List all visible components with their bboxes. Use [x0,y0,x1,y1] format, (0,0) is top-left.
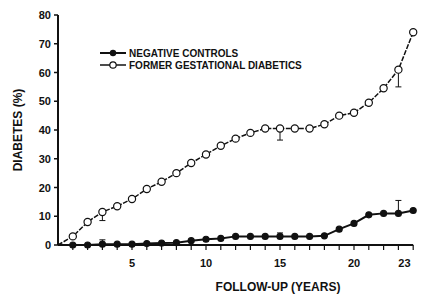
open-data-point [380,85,387,92]
filled-data-point [395,210,401,216]
filled-data-point [262,233,268,239]
open-data-point [336,112,343,119]
open-data-point [99,208,106,215]
legend-former-gdm: FORMER GESTATIONAL DIABETICS [129,60,302,71]
open-data-point [395,66,402,73]
y-tick-label: 80 [39,9,51,21]
filled-data-point [307,233,313,239]
filled-data-point [336,226,342,232]
open-data-point [202,151,209,158]
open-data-point [262,125,269,132]
filled-data-point [129,241,135,247]
open-data-point [321,121,328,128]
open-data-point [69,233,76,240]
open-data-point [173,170,180,177]
filled-data-point [277,233,283,239]
open-data-point [188,159,195,166]
open-data-point [128,195,135,202]
filled-data-point [366,212,372,218]
open-data-point [276,125,283,132]
filled-data-point [351,220,357,226]
open-data-point [306,125,313,132]
filled-data-point [321,233,327,239]
legend: NEGATIVE CONTROLS FORMER GESTATIONAL DIA… [100,48,302,71]
open-data-point [217,142,224,149]
filled-data-point [203,236,209,242]
filled-data-point [85,242,91,248]
x-tick-label: 10 [200,257,212,269]
filled-data-point [292,233,298,239]
y-tick-label: 60 [39,67,51,79]
filled-data-point [173,240,179,246]
y-tick-label: 20 [39,182,51,194]
open-circle-marker-icon [110,62,116,68]
filled-data-point [188,238,194,244]
open-data-point [247,129,254,136]
open-data-point [350,109,357,116]
y-tick-label: 10 [39,210,51,222]
open-data-point [410,29,417,36]
y-tick-label: 0 [45,239,51,251]
filled-data-point [159,240,165,246]
open-data-point [232,135,239,142]
open-data-point [158,178,165,185]
x-tick-label: 23 [398,257,410,269]
diabetes-line-chart: 01020304050607080510152023 NEGATIVE CONT… [0,0,424,299]
filled-data-point [114,241,120,247]
open-data-point [143,185,150,192]
open-data-point [84,218,91,225]
y-tick-label: 50 [39,95,51,107]
filled-data-point [381,210,387,216]
filled-data-point [70,242,76,248]
filled-data-point [144,241,150,247]
filled-data-point [218,235,224,241]
y-tick-label: 30 [39,153,51,165]
filled-data-point [99,241,105,247]
x-axis-label: FOLLOW-UP (YEARS) [216,280,341,294]
filled-circle-marker-icon [110,50,116,56]
filled-data-point [247,233,253,239]
y-tick-label: 70 [39,38,51,50]
x-tick-label: 20 [348,257,360,269]
x-tick-label: 15 [274,257,286,269]
open-data-point [291,125,298,132]
filled-data-point [410,208,416,214]
y-axis-label: DIABETES (%) [11,89,25,172]
filled-data-point [233,233,239,239]
x-tick-label: 5 [129,257,135,269]
open-data-point [365,99,372,106]
open-data-point [114,203,121,210]
y-tick-label: 40 [39,124,51,136]
legend-negative-controls: NEGATIVE CONTROLS [129,48,239,59]
